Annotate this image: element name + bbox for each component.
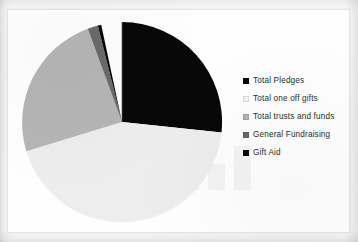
legend-item-label: Total trusts and funds <box>253 112 334 122</box>
legend-swatch-icon <box>243 96 249 102</box>
legend-item-total-trusts-and-funds[interactable]: Total trusts and funds <box>243 108 351 126</box>
legend-item-label: Total Pledges <box>253 76 304 86</box>
legend-item-label: Gift Aid <box>253 148 281 158</box>
legend-item-total-one-off-gifts[interactable]: Total one off gifts <box>243 90 351 108</box>
legend-swatch-icon <box>243 132 249 138</box>
legend-swatch-icon <box>243 78 249 84</box>
pie-chart-svg <box>17 17 227 227</box>
chart-screenshot: Total Pledges Total one off gifts Total … <box>0 0 358 242</box>
chart-frame: Total Pledges Total one off gifts Total … <box>7 9 350 233</box>
legend-item-label: Total one off gifts <box>253 94 318 104</box>
pie-slice-total-pledges[interactable] <box>122 22 222 133</box>
legend-item-general-fundraising[interactable]: General Fundraising <box>243 126 351 144</box>
chart-legend: Total Pledges Total one off gifts Total … <box>243 72 351 162</box>
pie-plot-area <box>17 17 227 227</box>
legend-item-label: General Fundraising <box>253 130 330 140</box>
legend-item-gift-aid[interactable]: Gift Aid <box>243 144 351 162</box>
legend-item-total-pledges[interactable]: Total Pledges <box>243 72 351 90</box>
legend-swatch-icon <box>243 114 249 120</box>
legend-swatch-icon <box>243 150 249 156</box>
